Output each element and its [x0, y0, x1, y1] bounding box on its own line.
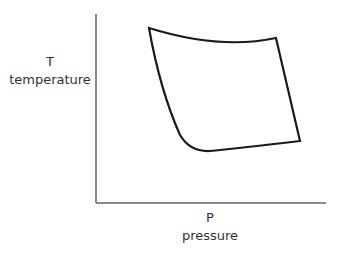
x-axis-label: pressure — [170, 228, 250, 244]
diagram-canvas — [0, 0, 341, 253]
x-axis-symbol: P — [200, 210, 220, 226]
y-axis-label: temperature — [8, 72, 92, 88]
y-axis-symbol: T — [40, 54, 60, 70]
cycle-loop — [149, 28, 300, 151]
